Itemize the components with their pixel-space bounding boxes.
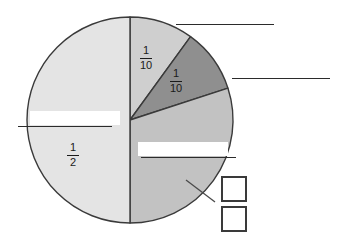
whiteout-band — [138, 142, 228, 156]
answer-line-right[interactable] — [232, 78, 330, 79]
fraction-denominator: 10 — [164, 82, 188, 95]
whiteout-band — [30, 111, 120, 125]
slice-label-half: 1 2 — [61, 142, 85, 168]
fraction-numerator: 1 — [61, 142, 85, 155]
answer-line-left[interactable] — [18, 126, 112, 127]
fraction-numerator: 1 — [164, 68, 188, 81]
fraction-denominator-box[interactable] — [221, 206, 247, 232]
slice-label-tenth-b: 1 10 — [164, 68, 188, 94]
worksheet-canvas: 1 10 1 10 1 2 — [0, 0, 341, 240]
fraction-numerator: 1 — [134, 45, 158, 58]
slice-label-tenth-a: 1 10 — [134, 45, 158, 71]
fraction-denominator: 2 — [61, 156, 85, 169]
answer-line-middle[interactable] — [141, 157, 236, 158]
answer-line-top-right[interactable] — [176, 24, 274, 25]
fraction-numerator-box[interactable] — [221, 176, 247, 202]
fraction-denominator: 10 — [134, 59, 158, 72]
